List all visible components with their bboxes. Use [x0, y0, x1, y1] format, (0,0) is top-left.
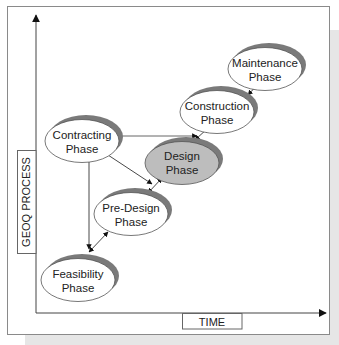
- node-label-line2: Phase: [62, 282, 95, 294]
- node-ellipse: [94, 193, 168, 236]
- node-label-line1: Pre-Design: [102, 202, 160, 214]
- x-axis-label: TIME: [199, 316, 225, 328]
- node-label-line2: Phase: [166, 164, 199, 176]
- node-ellipse: [228, 48, 302, 91]
- node-ellipse: [45, 120, 119, 163]
- x-axis-label-box: TIME: [183, 314, 243, 330]
- geoq-process-diagram: GEOQ PROCESS TIME Contracting Phase Desi…: [0, 0, 339, 345]
- node-ellipse: [41, 259, 115, 302]
- node-label-line2: Phase: [66, 143, 99, 155]
- node-label-line2: Phase: [115, 216, 148, 228]
- node-label-line1: Design: [164, 150, 200, 162]
- node-label-line1: Construction: [185, 100, 250, 112]
- y-axis-label: GEOQ PROCESS: [20, 157, 32, 247]
- node-label-line1: Feasibility: [52, 268, 103, 280]
- y-axis-label-box: GEOQ PROCESS: [18, 151, 37, 254]
- node-label-line1: Maintenance: [232, 57, 298, 69]
- node-label-line1: Contracting: [53, 129, 112, 141]
- node-label-line2: Phase: [201, 114, 234, 126]
- node-label-line2: Phase: [249, 71, 282, 83]
- node-ellipse: [180, 91, 254, 134]
- node-ellipse: [145, 142, 219, 185]
